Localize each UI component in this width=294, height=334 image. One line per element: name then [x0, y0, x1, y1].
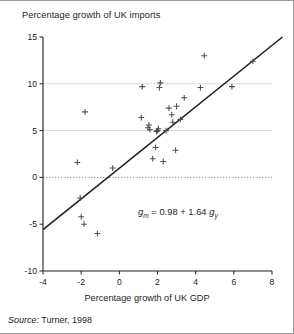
- data-point: [74, 160, 80, 166]
- data-point: [77, 195, 83, 201]
- x-axis-title: Percentage growth of UK GDP: [0, 293, 294, 303]
- x-tick-label--2: -2: [77, 277, 85, 287]
- y-tick-label--5: -5: [29, 219, 37, 229]
- data-point: [181, 95, 187, 101]
- data-point: [81, 221, 87, 227]
- x-tick-label-0: 0: [117, 277, 122, 287]
- regression-equation: gm = 0.98 + 1.64 gy: [138, 206, 218, 219]
- data-point: [198, 85, 204, 91]
- data-point: [160, 159, 166, 165]
- y-tick-label-5: 5: [32, 126, 37, 136]
- data-point: [138, 115, 144, 121]
- data-point: [157, 80, 163, 86]
- source-value: Turner, 1998: [39, 315, 92, 325]
- data-point: [157, 85, 163, 91]
- data-point: [139, 84, 145, 90]
- source-label: Source:: [8, 315, 39, 325]
- x-tick-label-6: 6: [231, 277, 236, 287]
- data-point: [78, 214, 84, 220]
- x-tick-label-2: 2: [155, 277, 160, 287]
- data-point: [201, 53, 207, 59]
- scatter-chart-svg: -10-5051015-4-202468: [0, 1, 294, 334]
- data-point: [94, 231, 100, 237]
- x-tick-label-4: 4: [193, 277, 198, 287]
- y-tick-label--10: -10: [25, 266, 38, 276]
- y-tick-label-10: 10: [27, 79, 37, 89]
- data-point: [150, 156, 156, 162]
- y-tick-label-0: 0: [32, 172, 37, 182]
- figure-container: Percentage growth of UK imports -10-5051…: [0, 0, 294, 334]
- data-point: [146, 122, 152, 128]
- data-point: [82, 109, 88, 115]
- plot-area: -10-5051015-4-202468: [0, 1, 294, 334]
- source-note: Source: Turner, 1998: [8, 315, 92, 325]
- data-point: [174, 103, 180, 109]
- data-point: [169, 112, 175, 118]
- x-tick-label--4: -4: [39, 277, 47, 287]
- data-point: [173, 147, 179, 153]
- x-tick-label-8: 8: [270, 277, 275, 287]
- data-point: [166, 105, 172, 111]
- y-tick-label-15: 15: [27, 32, 37, 42]
- regression-line: [43, 37, 282, 230]
- data-point: [229, 84, 235, 90]
- data-point: [153, 145, 159, 151]
- data-point: [110, 165, 116, 171]
